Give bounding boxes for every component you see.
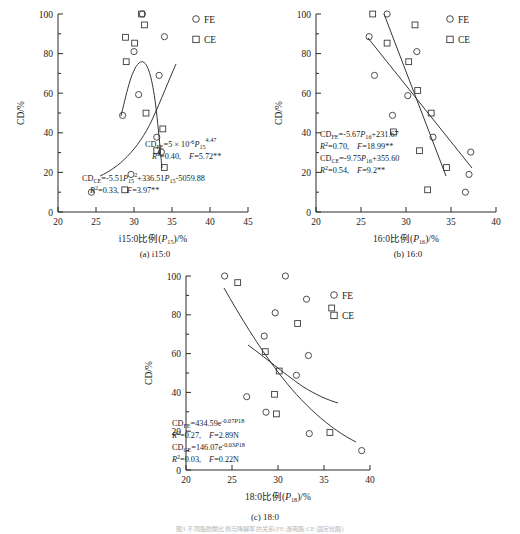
panel-a-equations: CDFE=5 × 10-6P154.47 R2=0.40,F=5.72** CD… xyxy=(82,136,221,195)
fe-marker xyxy=(156,72,162,78)
panel-a-ytick-20: 20 xyxy=(44,168,54,178)
panel-c-xtick-35: 35 xyxy=(319,475,329,485)
panel-c-x-axis-label: 18:0比例(P18)/% xyxy=(245,491,311,503)
panel-b-x-axis-label: 16:0比例(P16)/% xyxy=(373,233,439,245)
fe-marker xyxy=(193,16,200,23)
panel-c-18-0: 0 20 40 60 80 100 20 25 30 35 40 CD/% 18… xyxy=(130,264,400,516)
panel-a-legend-ce-label: CE xyxy=(204,35,216,45)
panel-a-eq-ce: CDCE=-5.51P152+336.51P15-5059.88 xyxy=(82,171,205,184)
panel-a-y-axis-label: CD/% xyxy=(16,101,26,125)
panel-b-equations: CDFE=-5.67P16+231.67 R2=0.70,F=18.99** C… xyxy=(319,130,399,175)
fe-marker xyxy=(389,112,395,118)
fe-marker xyxy=(131,49,137,55)
panel-b-eq-fe: CDFE=-5.67P16+231.67 xyxy=(320,130,399,140)
panel-a-x-ticks: 20 25 30 35 40 45 xyxy=(53,207,253,227)
fe-marker xyxy=(305,352,311,358)
ce-marker xyxy=(193,36,199,42)
ce-marker xyxy=(417,148,423,154)
ce-marker xyxy=(123,34,129,40)
ce-marker xyxy=(370,11,376,17)
panel-c-eq-fe-stats: R2=0.27,F=2.89N xyxy=(171,429,239,440)
panel-c-ytick-80: 80 xyxy=(172,310,182,320)
panel-b-legend: FE CE xyxy=(447,15,471,46)
panel-a-ytick-40: 40 xyxy=(44,128,54,138)
panel-a-xtick-35: 35 xyxy=(167,217,177,227)
panel-b-ytick-0: 0 xyxy=(306,208,311,218)
panel-c-eq-ce: CDCE=146.07e-0.03P18 xyxy=(172,441,245,453)
fe-marker xyxy=(306,431,312,437)
panel-b-eq-fe-stats: R2=0.70,F=18.99** xyxy=(319,140,393,151)
panel-c-legend-ce-label: CE xyxy=(342,311,354,321)
panel-a-ytick-100: 100 xyxy=(39,10,54,20)
panel-b-xtick-30: 30 xyxy=(401,217,411,227)
fe-marker xyxy=(244,394,250,400)
panel-b-xtick-35: 35 xyxy=(446,217,456,227)
panel-c-ce-curve xyxy=(248,345,338,403)
fe-marker xyxy=(462,189,468,195)
panel-b-legend-ce-label: CE xyxy=(458,35,470,45)
panel-b-eq-ce-stats: R2=0.54,F=9.2** xyxy=(319,164,385,175)
panel-b-xtick-20: 20 xyxy=(311,217,321,227)
panel-a-plot: 0 20 40 60 80 100 20 25 30 35 40 45 CD/%… xyxy=(0,0,262,262)
panel-a-xtick-40: 40 xyxy=(205,217,215,227)
panel-b-ytick-100: 100 xyxy=(297,10,312,20)
fe-marker xyxy=(222,273,228,279)
fe-marker xyxy=(161,34,167,40)
ce-marker xyxy=(235,280,241,286)
panel-a-caption: (a) i15:0 xyxy=(60,249,250,259)
fe-marker xyxy=(331,292,338,299)
panel-a-legend: FE CE xyxy=(193,15,217,46)
panel-b-eq-ce: CDCE=-9.75P16+355.60 xyxy=(320,154,399,164)
panel-b-xtick-40: 40 xyxy=(491,217,501,227)
panel-c-xtick-30: 30 xyxy=(273,475,283,485)
ce-marker xyxy=(274,411,280,417)
panel-c-eq-fe: CDFE=434.59e-0.07P18 xyxy=(172,417,244,429)
panel-a-xtick-20: 20 xyxy=(53,217,63,227)
ce-marker xyxy=(412,22,418,28)
panel-b-y-axis-label: CD/% xyxy=(274,101,284,125)
panel-c-equations: CDFE=434.59e-0.07P18 R2=0.27,F=2.89N CDC… xyxy=(171,417,245,464)
panel-c-xtick-20: 20 xyxy=(181,475,191,485)
panel-b-caption: (b) 16:0 xyxy=(318,249,498,259)
fe-marker xyxy=(447,16,454,23)
panel-b-plot: 0 20 40 60 80 100 20 25 30 35 40 CD/% 16… xyxy=(258,0,520,262)
ce-marker xyxy=(331,312,337,318)
panel-b-ytick-60: 60 xyxy=(302,89,312,99)
panel-a-x-axis-label: i15:0比例(P15)/% xyxy=(119,233,188,245)
panel-a-eq-fe-stats: R2=0.40,F=5.72** xyxy=(151,150,221,161)
panel-b-y-ticks: 0 20 40 60 80 100 xyxy=(297,10,321,218)
panel-b-ytick-80: 80 xyxy=(302,49,312,59)
ce-marker xyxy=(272,391,278,397)
fe-marker xyxy=(303,296,309,302)
panel-c-series-ce xyxy=(235,280,335,436)
panel-a-ytick-60: 60 xyxy=(44,89,54,99)
panel-a-xtick-45: 45 xyxy=(243,217,253,227)
panel-a-ytick-0: 0 xyxy=(48,208,53,218)
panel-c-ytick-0: 0 xyxy=(176,466,181,476)
ce-marker xyxy=(384,40,390,46)
ce-marker xyxy=(425,187,431,193)
panel-a-ytick-80: 80 xyxy=(44,49,54,59)
panel-a-i15-0: 0 20 40 60 80 100 20 25 30 35 40 45 CD/%… xyxy=(0,0,262,262)
fe-marker xyxy=(261,333,267,339)
ce-marker xyxy=(415,88,421,94)
ce-marker xyxy=(327,430,333,436)
ce-marker xyxy=(132,40,138,46)
panel-c-xtick-25: 25 xyxy=(227,475,237,485)
panel-c-plot: 0 20 40 60 80 100 20 25 30 35 40 CD/% 18… xyxy=(130,264,400,516)
ce-marker xyxy=(447,36,453,42)
fe-marker xyxy=(405,93,411,99)
fe-marker xyxy=(414,49,420,55)
panel-c-ytick-100: 100 xyxy=(167,272,182,282)
panel-c-legend-fe-label: FE xyxy=(342,291,353,301)
panel-b-x-ticks: 20 25 30 35 40 xyxy=(311,207,501,227)
fe-marker xyxy=(120,112,126,118)
panel-a-eq-ce-stats: R2=0.33,F=3.97** xyxy=(89,184,159,195)
fe-marker xyxy=(136,92,142,98)
fe-marker xyxy=(468,149,474,155)
ce-marker xyxy=(406,59,412,65)
panel-a-legend-fe-label: FE xyxy=(204,15,215,25)
panel-a-eq-fe: CDFE=5 × 10-6P154.47 xyxy=(145,136,216,150)
panel-b-legend-fe-label: FE xyxy=(458,15,469,25)
fe-marker xyxy=(359,448,365,454)
